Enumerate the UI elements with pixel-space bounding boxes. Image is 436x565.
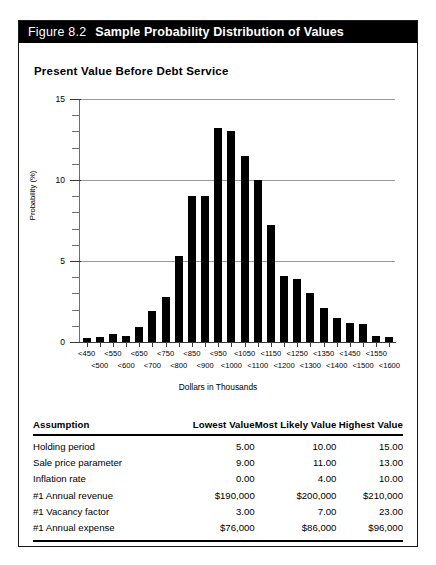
- x-axis-tick: [324, 343, 325, 347]
- y-axis-major-tick: [70, 342, 81, 343]
- table-cell-assumption: Holding period: [33, 435, 181, 455]
- column-header-assumption: Assumption: [33, 419, 181, 435]
- table-cell-lowest: $190,000: [181, 487, 255, 503]
- x-axis-tick: [166, 343, 167, 347]
- x-axis-tick: [337, 343, 338, 347]
- bar-series: [80, 99, 396, 342]
- bar: [122, 336, 130, 342]
- x-axis-tick: [205, 343, 206, 347]
- table-row: Sale price parameter9.0011.0013.00: [33, 455, 403, 471]
- x-axis-tick: [297, 343, 298, 347]
- y-axis-minor-tick: [72, 131, 79, 132]
- x-axis-tick: [100, 343, 101, 347]
- table-cell-highest: 13.00: [336, 455, 403, 471]
- table-cell-assumption: #1 Annual expense: [33, 519, 181, 535]
- y-axis-minor-tick: [72, 164, 79, 165]
- column-header-highest-value: Highest Value: [336, 419, 403, 435]
- bar: [320, 308, 328, 342]
- table-cell-lowest: 3.00: [181, 503, 255, 519]
- y-axis-minor-tick: [72, 326, 79, 327]
- table-cell-assumption: #1 Annual revenue: [33, 487, 181, 503]
- bar: [227, 131, 235, 342]
- x-axis-tick: [284, 343, 285, 347]
- x-axis-tick: [139, 343, 140, 347]
- bar: [109, 334, 117, 342]
- x-axis-tick: [245, 343, 246, 347]
- bar: [175, 256, 183, 342]
- x-axis-tick-label: <1550: [359, 349, 393, 358]
- table-cell-highest: 10.00: [336, 471, 403, 487]
- table-row: #1 Annual expense$76,000$86,000$96,000: [33, 519, 403, 535]
- bar: [214, 128, 222, 342]
- y-axis-minor-tick: [72, 310, 79, 311]
- y-axis-minor-tick: [72, 212, 79, 213]
- table-cell-lowest: 9.00: [181, 455, 255, 471]
- y-axis-minor-tick: [72, 245, 79, 246]
- x-axis-tick: [310, 343, 311, 347]
- bar: [280, 276, 288, 342]
- x-axis-tick: [376, 343, 377, 347]
- chart: 051015 <450<500<550<600<650<700<750<800<…: [19, 87, 417, 412]
- bar: [346, 323, 354, 342]
- table-cell-lowest: 5.00: [181, 435, 255, 455]
- bar: [333, 318, 341, 342]
- x-axis-tick: [389, 343, 390, 347]
- x-axis-tick: [179, 343, 180, 347]
- table-body: Holding period5.0010.0015.00Sale price p…: [33, 435, 403, 536]
- table-bottom-rule: [33, 540, 403, 542]
- table-row: #1 Annual revenue$190,000$200,000$210,00…: [33, 487, 403, 503]
- x-axis-tick: [87, 343, 88, 347]
- table-cell-likely: 11.00: [255, 455, 337, 471]
- bar: [135, 327, 143, 342]
- assumptions-table-wrap: Assumption Lowest Value Most Likely Valu…: [33, 419, 403, 542]
- bar: [359, 324, 367, 342]
- table-cell-likely: $86,000: [255, 519, 337, 535]
- table-cell-highest: $96,000: [336, 519, 403, 535]
- x-axis-tick: [258, 343, 259, 347]
- table-row: #1 Vacancy factor3.007.0023.00: [33, 503, 403, 519]
- bar: [241, 156, 249, 342]
- y-axis-tick-label: 5: [43, 256, 65, 266]
- figure-header: Figure 8.2 Sample Probability Distributi…: [19, 21, 417, 43]
- x-axis-tick: [218, 343, 219, 347]
- bar: [385, 337, 393, 342]
- figure-caption: Sample Probability Distribution of Value…: [95, 25, 344, 39]
- x-axis-tick: [271, 343, 272, 347]
- x-axis-tick-label: <1600: [372, 361, 406, 370]
- chart-title: Present Value Before Debt Service: [34, 65, 229, 77]
- x-axis-tick: [113, 343, 114, 347]
- x-axis-tick: [363, 343, 364, 347]
- bar: [162, 297, 170, 342]
- y-axis-tick-label: 0: [43, 337, 65, 347]
- column-header-most-likely-value: Most Likely Value: [255, 419, 337, 435]
- x-axis-tick: [231, 343, 232, 347]
- bar: [188, 196, 196, 342]
- table-cell-highest: $210,000: [336, 487, 403, 503]
- x-axis-tick: [350, 343, 351, 347]
- table-row: Holding period5.0010.0015.00: [33, 435, 403, 455]
- y-axis-minor-tick: [72, 229, 79, 230]
- table-cell-highest: 23.00: [336, 503, 403, 519]
- bar: [96, 337, 104, 342]
- table-cell-likely: 4.00: [255, 471, 337, 487]
- bar: [306, 293, 314, 342]
- bar: [254, 180, 262, 342]
- table-cell-highest: 15.00: [336, 435, 403, 455]
- x-axis-tick: [126, 343, 127, 347]
- y-axis-minor-tick: [72, 293, 79, 294]
- column-header-lowest-value: Lowest Value: [181, 419, 255, 435]
- y-axis-minor-tick: [72, 148, 79, 149]
- table-row: Inflation rate0.004.0010.00: [33, 471, 403, 487]
- bar: [83, 338, 91, 342]
- x-axis-title: Dollars in Thousands: [19, 382, 417, 392]
- table-cell-likely: 7.00: [255, 503, 337, 519]
- y-axis-minor-tick: [72, 196, 79, 197]
- table-header-row: Assumption Lowest Value Most Likely Valu…: [33, 419, 403, 435]
- table-cell-assumption: Inflation rate: [33, 471, 181, 487]
- y-axis-tick-label: 10: [43, 175, 65, 185]
- figure-frame: Figure 8.2 Sample Probability Distributi…: [18, 20, 418, 547]
- y-axis-tick-label: 15: [43, 94, 65, 104]
- table-cell-assumption: #1 Vacancy factor: [33, 503, 181, 519]
- bar: [148, 311, 156, 342]
- y-axis-title: Probability (%): [28, 161, 37, 231]
